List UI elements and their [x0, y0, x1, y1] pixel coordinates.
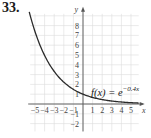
- x-tick-label: 5: [129, 106, 133, 115]
- x-tick-label: −2: [60, 106, 69, 115]
- x-tick-label: 1: [91, 106, 95, 115]
- function-label: f(x) = e−0.4x: [91, 85, 140, 99]
- function-graph: −5−4−3−2−112345−2−112345678xy f(x) = e−0…: [0, 0, 151, 138]
- y-tick-label: 7: [75, 31, 79, 40]
- tick-labels: −5−4−3−2−112345−2−112345678xy: [31, 5, 146, 129]
- y-axis-label: y: [73, 5, 78, 14]
- y-tick-label: 6: [75, 41, 79, 50]
- x-tick-label: −4: [40, 106, 49, 115]
- x-tick-label: 3: [110, 106, 114, 115]
- function-label-exponent: −0.4x: [123, 85, 140, 93]
- x-tick-label: 2: [100, 106, 104, 115]
- y-tick-label: −2: [70, 120, 79, 129]
- x-axis-label: x: [141, 106, 146, 115]
- y-tick-label: 3: [75, 71, 79, 80]
- y-tick-label: 5: [75, 51, 79, 60]
- x-tick-label: −5: [31, 106, 40, 115]
- function-label-base: f(x) = e: [91, 87, 123, 99]
- x-tick-label: 4: [119, 106, 123, 115]
- y-tick-label: 2: [75, 80, 79, 89]
- y-axis-arrow-icon: [81, 7, 85, 12]
- y-tick-label: 4: [75, 61, 79, 70]
- y-tick-label: 8: [75, 22, 79, 31]
- y-tick-label: −1: [70, 110, 79, 119]
- x-tick-label: −3: [50, 106, 59, 115]
